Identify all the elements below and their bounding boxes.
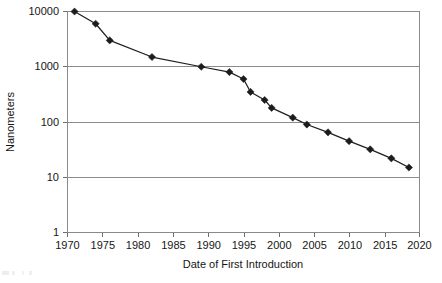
x-axis-ticks xyxy=(68,233,420,238)
x-tick-label-2020: 2020 xyxy=(407,239,431,251)
y-tick-label-1000: 1000 xyxy=(35,60,59,72)
x-tick-label-1970: 1970 xyxy=(55,239,79,251)
x-tick-label-1980: 1980 xyxy=(126,239,150,251)
y-tick-label-10000: 10000 xyxy=(28,5,59,17)
y-tick-label-100: 100 xyxy=(41,116,59,128)
y-axis-title: Nanometers xyxy=(4,92,16,152)
x-tick-label-2005: 2005 xyxy=(302,239,326,251)
x-tick-label-1990: 1990 xyxy=(196,239,220,251)
y-tick-label-1: 1 xyxy=(53,226,59,238)
x-tick-label-1975: 1975 xyxy=(91,239,115,251)
x-tick-label-1985: 1985 xyxy=(161,239,185,251)
y-tick-label-10: 10 xyxy=(47,171,59,183)
x-tick-label-2015: 2015 xyxy=(373,239,397,251)
x-tick-label-1995: 1995 xyxy=(232,239,256,251)
y-axis-tick-labels: 10000 1000 100 10 1 xyxy=(28,5,59,238)
nanometers-vs-date-line-chart: 10000 1000 100 10 1 1970 1975 1980 1985 xyxy=(0,0,442,283)
x-axis-title: Date of First Introduction xyxy=(183,258,303,270)
x-axis-tick-labels: 1970 1975 1980 1985 1990 1995 2000 2005 … xyxy=(55,239,431,251)
chart-figure: 10000 1000 100 10 1 1970 1975 1980 1985 xyxy=(0,0,442,283)
scan-artifact xyxy=(2,271,40,275)
y-axis-ticks xyxy=(63,12,67,233)
x-tick-label-2000: 2000 xyxy=(267,239,291,251)
x-tick-label-2010: 2010 xyxy=(338,239,362,251)
